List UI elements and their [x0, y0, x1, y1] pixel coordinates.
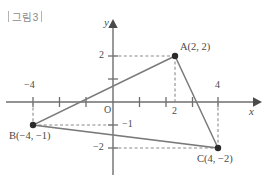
y-axis-label: y	[104, 16, 109, 28]
x-tick-label-2: 2	[172, 105, 177, 116]
point-a-marker	[172, 53, 178, 59]
y-tick-label-neg1: −1	[122, 118, 133, 129]
y-tick-label-neg2: −2	[93, 141, 104, 152]
y-tick-label-2: 2	[99, 49, 104, 60]
point-b-marker	[30, 122, 36, 128]
point-c-marker	[215, 145, 221, 151]
point-b-label: B(−4, −1)	[9, 130, 51, 141]
x-axis-label: x	[249, 105, 254, 117]
point-a-label: A(2, 2)	[180, 41, 210, 52]
origin-label: O	[104, 104, 111, 115]
figure-container: 그림3	[0, 0, 268, 182]
y-axis	[108, 19, 117, 175]
x-tick-label-neg4: −4	[24, 79, 35, 90]
point-c-label: C(4, −2)	[197, 153, 233, 164]
x-axis	[6, 97, 262, 107]
x-tick-label-4: 4	[215, 79, 220, 90]
